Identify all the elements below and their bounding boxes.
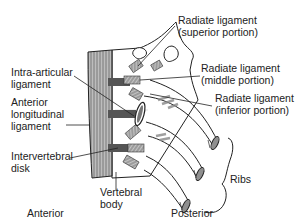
label-line: Radiate ligament bbox=[178, 14, 258, 26]
rib-ends bbox=[180, 135, 220, 213]
label-line: Anterior bbox=[11, 96, 64, 108]
ribs-brace bbox=[204, 138, 233, 213]
label-line: (middle portion) bbox=[201, 74, 280, 86]
middle-disk-band bbox=[108, 110, 136, 118]
label-radiate-inferior: Radiate ligament (inferior portion) bbox=[215, 92, 294, 116]
label-radiate-middle: Radiate ligament (middle portion) bbox=[201, 62, 280, 86]
label-intra-articular-ligament: Intra-articular ligament bbox=[11, 66, 73, 90]
label-line: longitudinal bbox=[11, 108, 64, 120]
label-line: (superior portion) bbox=[178, 26, 258, 38]
label-intervertebral-disk: Intervertebral disk bbox=[11, 150, 73, 174]
label-posterior: Posterior bbox=[171, 207, 213, 219]
label-line: ligament bbox=[11, 120, 64, 132]
label-line: (inferior portion) bbox=[215, 104, 294, 116]
label-line: Radiate ligament bbox=[201, 62, 280, 74]
label-line: Vertebral bbox=[100, 186, 142, 198]
label-anterior-longitudinal-ligament: Anterior longitudinal ligament bbox=[11, 96, 64, 132]
label-line: Intra-articular bbox=[11, 66, 73, 78]
vertebral-body bbox=[112, 22, 198, 178]
label-ribs: Ribs bbox=[230, 173, 251, 185]
label-vertebral-body: Vertebral body bbox=[100, 186, 142, 210]
costovertebral-diagram: Radiate ligament (superior portion) Radi… bbox=[0, 0, 302, 223]
label-line: Radiate ligament bbox=[215, 92, 294, 104]
label-radiate-superior: Radiate ligament (superior portion) bbox=[178, 14, 258, 38]
label-anterior: Anterior bbox=[27, 207, 64, 219]
label-line: disk bbox=[11, 162, 73, 174]
label-line: Intervertebral bbox=[11, 150, 73, 162]
label-line: body bbox=[100, 198, 142, 210]
label-line: ligament bbox=[11, 78, 73, 90]
